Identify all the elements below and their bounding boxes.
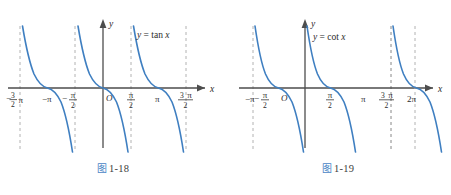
svg-text:−: − [62,93,67,103]
tan-y-axis-label: y [108,19,114,29]
tan-origin-label: O [106,93,113,103]
tan-caption-number: 1-18 [109,163,129,174]
svg-text:π: π [361,94,366,104]
tan-tick-neg-pi-2: − π 2 [62,90,77,110]
cot-y-axis-label: y [310,19,316,29]
cot-tick-neg-pi-2: − π 2 [254,90,269,110]
svg-text:π: π [129,90,134,100]
cot-origin-label: O [281,93,288,103]
svg-text:π: π [19,95,24,105]
y-axis-arrow [100,19,107,28]
tan-plot: y = tan x y x O − 3 2 π −π − π 2 [0,0,226,160]
x-axis-arrow [197,85,205,92]
svg-text:2: 2 [385,101,389,110]
tan-tick-pi-2: π 2 [127,90,135,110]
tan-tick-pi: π [155,94,160,104]
cot-caption-cjk: 图 [322,163,332,174]
cot-plot: y = cot x y x O −π − π 2 π 2 [225,0,451,160]
svg-text:2: 2 [71,101,75,110]
svg-text:3: 3 [381,91,385,100]
svg-text:3: 3 [180,91,184,100]
cot-asymptotes [253,26,391,152]
cot-caption-number: 1-19 [334,163,354,174]
tan-x-axis-label: x [209,84,215,94]
svg-text:2: 2 [184,101,188,110]
tan-axes [8,19,205,148]
cot-tick-pi: π [361,94,366,104]
tan-tick-neg-pi: −π [42,94,52,104]
svg-text:2: 2 [129,101,133,110]
x-axis-arrow [425,85,433,92]
tan-caption-cjk: 图 [97,163,107,174]
svg-text:π: π [187,90,192,100]
svg-text:π: π [388,90,393,100]
tan-tick-neg-3pi-2: − 3 2 π [6,91,24,109]
tan-branch-right [134,26,184,152]
cot-branch-right [393,26,442,152]
cot-figure-caption: 图1-19 [225,160,451,175]
svg-text:2π: 2π [407,94,417,104]
svg-text:π: π [328,90,333,100]
cot-branch-left [255,26,304,152]
cot-x-axis-label: x [437,84,443,94]
figure-cot: y = cot x y x O −π − π 2 π 2 [225,0,451,195]
svg-text:π: π [155,94,160,104]
svg-text:3: 3 [11,91,15,100]
cot-branch-center [307,26,356,152]
tan-figure-caption: 图1-18 [0,160,226,175]
cot-tick-pi-2: π 2 [326,90,334,110]
cot-tick-3pi-2: 3 π 2 [379,90,394,110]
tan-tick-3pi-2: 3 π 2 [178,90,193,110]
svg-text:−: − [254,93,259,103]
svg-text:−π: −π [42,94,52,104]
svg-text:π: π [71,90,76,100]
svg-text:2: 2 [328,101,332,110]
svg-text:2: 2 [263,101,267,110]
cot-equation-label: y = cot x [312,32,346,42]
svg-text:π: π [263,90,268,100]
svg-text:2: 2 [11,100,15,109]
cot-curves [255,26,442,152]
figure-tan: y = tan x y x O − 3 2 π −π − π 2 [0,0,226,195]
tan-branch-left [23,26,73,152]
cot-tick-2pi: 2π [407,94,417,104]
figure-page: y = tan x y x O − 3 2 π −π − π 2 [0,0,451,195]
tan-equation-label: y = tan x [136,30,170,40]
